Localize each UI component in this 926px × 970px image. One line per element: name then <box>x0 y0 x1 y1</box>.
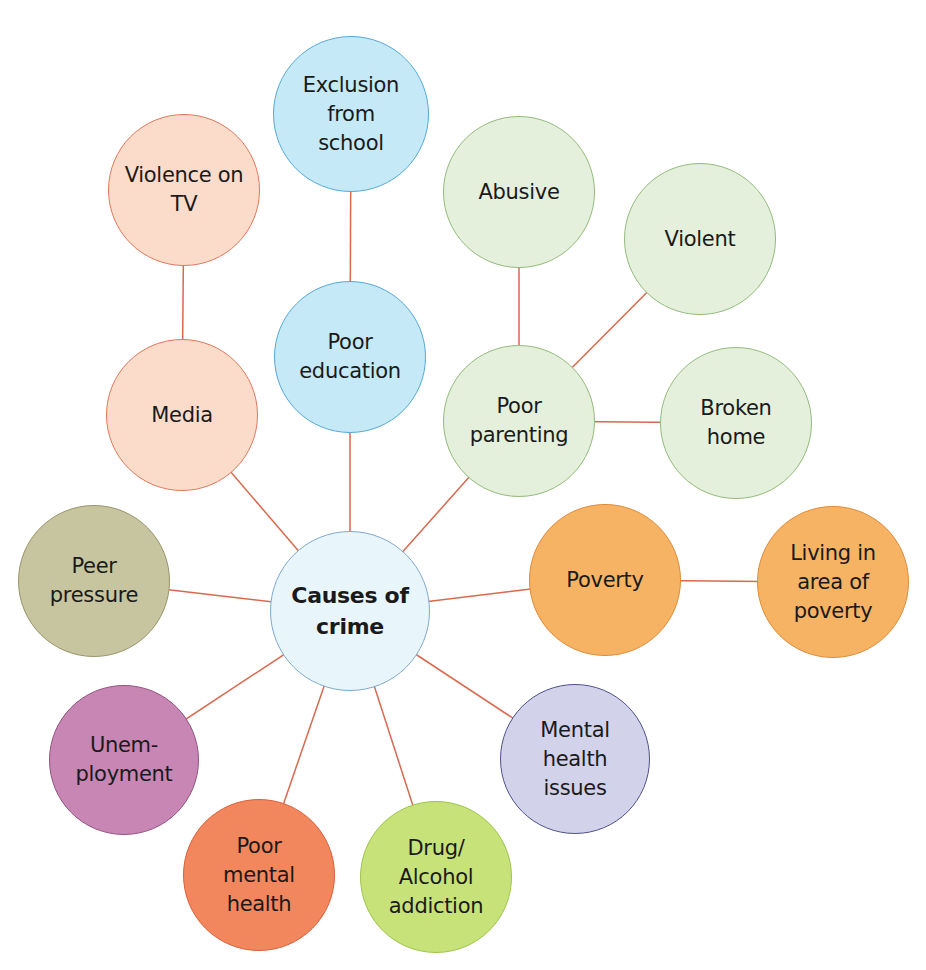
node-violence-on-tv: Violence on TV <box>108 114 260 266</box>
node-exclusion-from-school: Exclusion from school <box>273 36 429 192</box>
node-living-in-area-of-poverty: Living in area of poverty <box>757 506 909 658</box>
node-label: Drug/ Alcohol addiction <box>389 834 483 921</box>
node-label: Poverty <box>566 566 643 595</box>
node-unemployment: Unem- ployment <box>49 685 199 835</box>
node-poverty: Poverty <box>529 504 681 656</box>
node-label: Broken home <box>700 394 771 452</box>
node-label: Media <box>151 401 213 430</box>
node-label: Exclusion from school <box>303 71 399 158</box>
node-drug-alcohol-addiction: Drug/ Alcohol addiction <box>360 801 512 953</box>
node-poor-education: Poor education <box>274 281 426 433</box>
node-mental-health-issues: Mental health issues <box>500 684 650 834</box>
node-label: Abusive <box>478 178 559 207</box>
node-label: Peer pressure <box>50 552 138 610</box>
node-poor-mental-health: Poor mental health <box>183 799 335 951</box>
node-label: Poor mental health <box>223 832 295 919</box>
central-node-causes-of-crime: Causes of crime <box>270 531 430 691</box>
node-label: Causes of crime <box>291 580 408 642</box>
node-label: Unem- ployment <box>76 731 173 789</box>
node-poor-parenting: Poor parenting <box>443 345 595 497</box>
node-label: Poor parenting <box>470 392 569 450</box>
node-label: Mental health issues <box>540 716 610 803</box>
node-peer-pressure: Peer pressure <box>18 505 170 657</box>
node-label: Poor education <box>299 328 401 386</box>
node-broken-home: Broken home <box>660 347 812 499</box>
node-violent: Violent <box>624 163 776 315</box>
node-label: Violence on TV <box>125 161 244 219</box>
node-abusive: Abusive <box>443 116 595 268</box>
node-label: Violent <box>665 225 736 254</box>
node-media: Media <box>106 339 258 491</box>
node-label: Living in area of poverty <box>790 539 876 626</box>
